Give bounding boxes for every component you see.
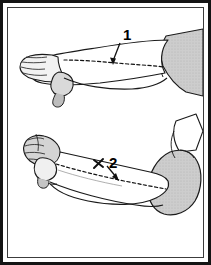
thumb-tip-top [53, 93, 65, 107]
thumb-top [51, 72, 73, 96]
thumb-bottom [34, 158, 56, 181]
forearm-anatomy-illustration: 1 [0, 0, 211, 265]
callout-label-1: 1 [123, 26, 131, 43]
callout-label-2: 2 [109, 154, 117, 171]
figure-frame: 1 [0, 0, 211, 265]
